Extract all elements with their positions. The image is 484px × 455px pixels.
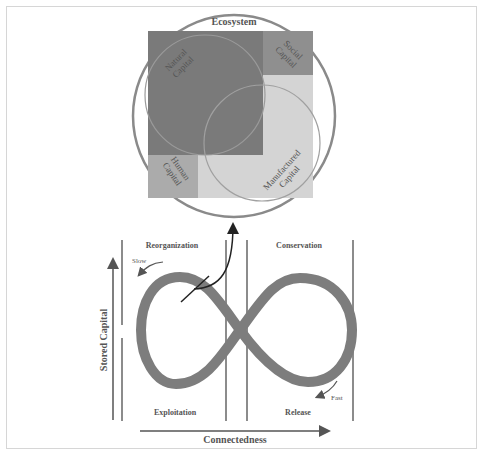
adaptive-cycle-diagram: Ecosystem Natural Capital Social Capital… [0, 0, 484, 455]
phase-label-release: Release [285, 408, 311, 417]
x-axis-label: Connectedness [203, 434, 266, 445]
capitals-diagram: Ecosystem Natural Capital Social Capital… [133, 15, 335, 217]
ecosystem-label: Ecosystem [212, 16, 258, 27]
phase-label-conservation: Conservation [276, 241, 322, 250]
phase-label-reorganization: Reorganization [146, 241, 199, 250]
y-axis-label: Stored Capital [98, 309, 109, 372]
phase-label-exploitation: Exploitation [154, 408, 197, 417]
speed-label-fast: Fast [331, 394, 343, 402]
speed-label-slow: Slow [132, 257, 147, 265]
adaptive-cycle: Reorganization Conservation Exploitation… [98, 225, 353, 445]
